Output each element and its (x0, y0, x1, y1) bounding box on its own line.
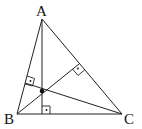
vertex-label-c: C (124, 111, 134, 127)
side-ab (17, 19, 42, 114)
right-angle-marker-bc (42, 106, 50, 114)
altitude-from-b (17, 64, 79, 114)
orthocenter-point (40, 89, 45, 94)
vertex-label-a: A (36, 3, 47, 19)
right-angle-marker-ac (73, 68, 85, 76)
altitude-from-c (25, 83, 122, 114)
side-ac (42, 19, 122, 114)
vertex-label-b: B (4, 111, 14, 127)
orthocenter-diagram: A B C (0, 0, 142, 129)
